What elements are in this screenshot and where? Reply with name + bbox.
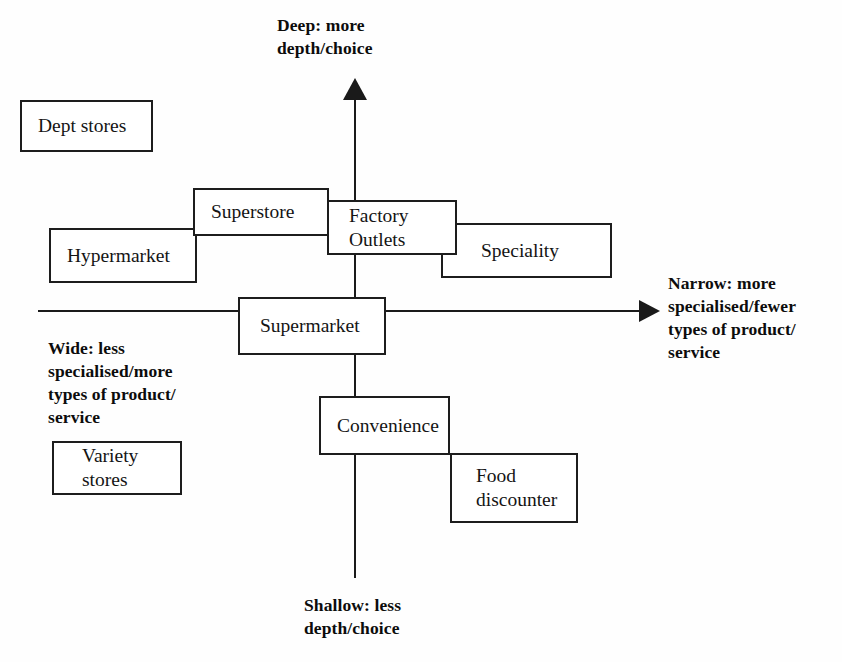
format-box-label: Food discounter xyxy=(476,464,557,512)
format-box-label: Variety stores xyxy=(82,444,138,492)
format-box-label: Hypermarket xyxy=(67,244,170,268)
format-box-label: Dept stores xyxy=(38,114,126,138)
format-box-label: Supermarket xyxy=(260,314,360,338)
format-box-convenience[interactable]: Convenience xyxy=(319,396,450,455)
format-box-dept-stores[interactable]: Dept stores xyxy=(20,100,153,152)
axis-label-narrow: Narrow: more specialised/fewer types of … xyxy=(668,272,796,364)
format-box-factory-outlets[interactable]: Factory Outlets xyxy=(327,200,457,255)
format-box-label: Speciality xyxy=(481,239,559,263)
format-box-hypermarket[interactable]: Hypermarket xyxy=(49,228,197,283)
format-box-variety-stores[interactable]: Variety stores xyxy=(52,441,182,495)
diagram-canvas: Deep: more depth/choice Shallow: less de… xyxy=(0,0,842,662)
arrow-up-icon xyxy=(343,78,367,100)
format-box-supermarket[interactable]: Supermarket xyxy=(238,297,386,355)
format-box-label: Superstore xyxy=(211,200,294,224)
format-box-superstore[interactable]: Superstore xyxy=(193,188,329,236)
format-box-food-discounter[interactable]: Food discounter xyxy=(450,453,578,523)
axis-label-wide: Wide: less specialised/more types of pro… xyxy=(48,337,176,429)
arrow-right-icon xyxy=(639,300,660,322)
format-box-speciality[interactable]: Speciality xyxy=(441,223,612,278)
axis-label-deep: Deep: more depth/choice xyxy=(277,14,373,60)
format-box-label: Convenience xyxy=(337,414,439,438)
format-box-label: Factory Outlets xyxy=(349,204,409,252)
axis-label-shallow: Shallow: less depth/choice xyxy=(304,594,401,640)
